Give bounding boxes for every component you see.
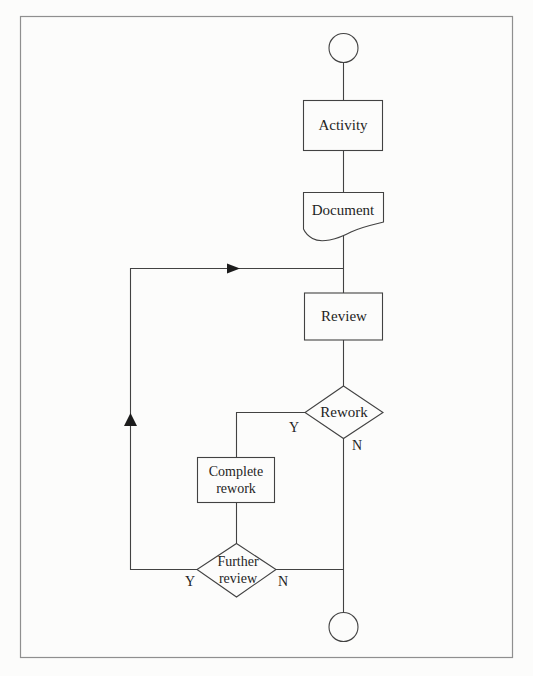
rework-no-label: N [352, 437, 362, 454]
activity-label: Activity [318, 117, 367, 134]
rework-label: Rework [320, 404, 368, 421]
rework-yes-label: Y [289, 419, 299, 436]
arrowheads [124, 264, 240, 427]
end-circle [329, 613, 358, 642]
flowchart-page: Activity Document Review Rework Complete… [0, 0, 533, 676]
up-arrowhead-icon [124, 413, 137, 426]
document-label: Document [312, 202, 374, 219]
further-review-no-label: N [278, 573, 288, 590]
right-arrowhead-icon [227, 264, 240, 274]
further-review-yes-label: Y [185, 573, 195, 590]
complete-rework-label: Complete rework [196, 463, 276, 497]
start-circle [329, 34, 358, 63]
review-label: Review [321, 308, 367, 325]
further-review-label: Further review [208, 553, 268, 587]
